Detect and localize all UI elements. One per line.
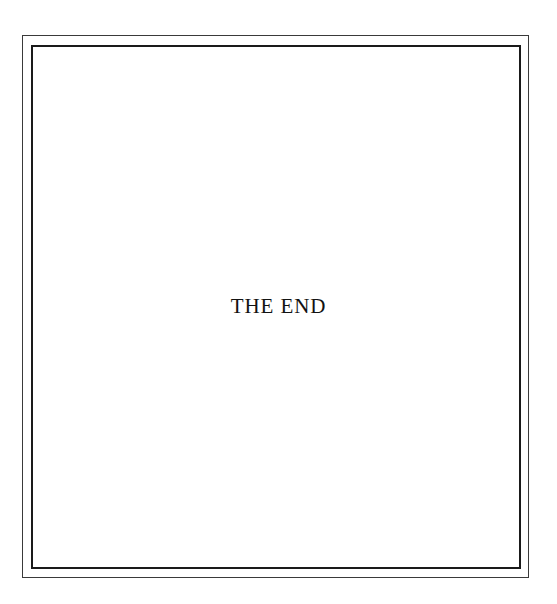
end-inscription: THE END (0, 294, 557, 318)
scanned-page: THE END (0, 0, 557, 604)
